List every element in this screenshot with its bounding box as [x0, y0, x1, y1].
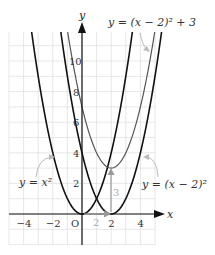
x-tick-label: 4 — [137, 218, 143, 229]
y-axis-label: y — [78, 9, 86, 22]
shift-x-label: 2 — [93, 217, 99, 228]
x-axis-label: x — [167, 208, 174, 221]
y-tick-label: 8 — [73, 87, 79, 98]
equation-top-label: y = (x − 2)² + 3 — [107, 16, 196, 29]
y-tick-label: 6 — [73, 117, 79, 128]
x-tick-label: −2 — [46, 218, 61, 229]
equation-right-label: y = (x − 2)² — [141, 178, 207, 191]
x-axis-arrow-icon — [154, 210, 165, 218]
x-tick-label: −4 — [17, 218, 32, 229]
curved-arrow-right-head-icon — [143, 154, 149, 160]
horizontal-shift-arrowhead-icon — [104, 211, 111, 218]
y-tick-label: 4 — [73, 148, 79, 159]
y-axis-arrow-icon — [78, 22, 86, 33]
x-tick-label: 2 — [108, 218, 114, 229]
y-tick-label: 10 — [69, 56, 82, 67]
equation-left-label: y = x² — [18, 176, 52, 189]
y-tick-label: 2 — [73, 178, 79, 189]
vertical-shift-arrowhead-icon — [108, 168, 115, 175]
x-tick-label: O — [71, 218, 79, 229]
curved-arrow-right-icon — [146, 157, 158, 177]
curved-arrow-top-head-icon — [143, 46, 150, 52]
parabola-translation-chart: −4−2O24246810 y x y = (x − 2)² + 3 y = x… — [0, 0, 215, 255]
shift-y-label: 3 — [113, 187, 119, 198]
